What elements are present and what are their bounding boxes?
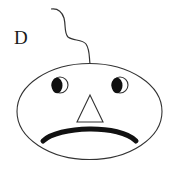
frown-mouth <box>43 129 136 141</box>
right-eye-pupil <box>112 78 123 94</box>
hair-strand <box>51 9 90 64</box>
left-eye-pupil <box>52 78 63 94</box>
right-eye <box>112 77 129 93</box>
figure-label: D <box>14 27 28 48</box>
triangle-nose <box>77 95 103 122</box>
head-outline <box>17 64 162 160</box>
sad-face-figure: D <box>0 0 178 173</box>
left-eye <box>52 77 69 93</box>
